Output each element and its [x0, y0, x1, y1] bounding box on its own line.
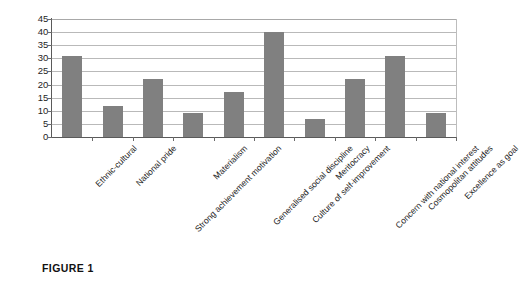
y-axis-tick-label: 45 — [24, 14, 48, 24]
bar — [62, 56, 82, 137]
x-axis-tick-mark — [375, 137, 376, 141]
y-axis-tick-mark — [48, 137, 52, 138]
x-axis-tick-mark — [416, 137, 417, 141]
y-axis-tick-labels: 051015202530354045 — [20, 0, 48, 290]
bar — [183, 113, 203, 137]
y-axis-tick-label: 10 — [24, 106, 48, 116]
x-axis-tick-mark — [294, 137, 295, 141]
y-axis-tick-mark — [48, 98, 52, 99]
x-axis-tick-mark — [173, 137, 174, 141]
gridline — [52, 45, 456, 46]
gridline — [52, 32, 456, 33]
figure-caption-label: FIGURE 1 — [42, 262, 94, 274]
y-axis-tick-mark — [48, 71, 52, 72]
x-axis-tick-mark — [335, 137, 336, 141]
bar — [103, 106, 123, 137]
y-axis-tick-label: 20 — [24, 80, 48, 90]
x-axis-category-label: Ethnic-cultural — [94, 144, 139, 189]
x-axis-tick-mark — [254, 137, 255, 141]
plot-right-border — [456, 19, 457, 138]
y-axis-tick-mark — [48, 58, 52, 59]
y-axis-tick-mark — [48, 19, 52, 20]
bar — [143, 79, 163, 137]
bar — [305, 119, 325, 137]
bar — [426, 113, 446, 137]
x-axis-tick-mark — [133, 137, 134, 141]
x-axis-tick-mark — [214, 137, 215, 141]
y-axis-tick-label: 5 — [24, 119, 48, 129]
y-axis-tick-mark — [48, 124, 52, 125]
y-axis-tick-mark — [48, 111, 52, 112]
y-axis-tick-label: 0 — [24, 132, 48, 142]
x-axis-category-label: National pride — [134, 144, 178, 188]
y-axis-tick-label: 40 — [24, 27, 48, 37]
bar — [345, 79, 365, 137]
plot-area — [52, 19, 456, 137]
y-axis-tick-mark — [48, 85, 52, 86]
figure-caption-subtext — [42, 284, 462, 290]
gridline — [52, 19, 456, 20]
y-axis-tick-label: 35 — [24, 40, 48, 50]
y-axis-tick-label: 30 — [24, 53, 48, 63]
x-axis-tick-mark — [456, 137, 457, 141]
y-axis-tick-label: 15 — [24, 93, 48, 103]
y-axis-tick-mark — [48, 45, 52, 46]
bar — [224, 92, 244, 137]
bar — [264, 32, 284, 137]
bar — [385, 56, 405, 137]
y-axis-tick-mark — [48, 32, 52, 33]
x-axis-tick-mark — [92, 137, 93, 141]
y-axis-tick-label: 25 — [24, 66, 48, 76]
y-axis-line — [51, 18, 52, 138]
